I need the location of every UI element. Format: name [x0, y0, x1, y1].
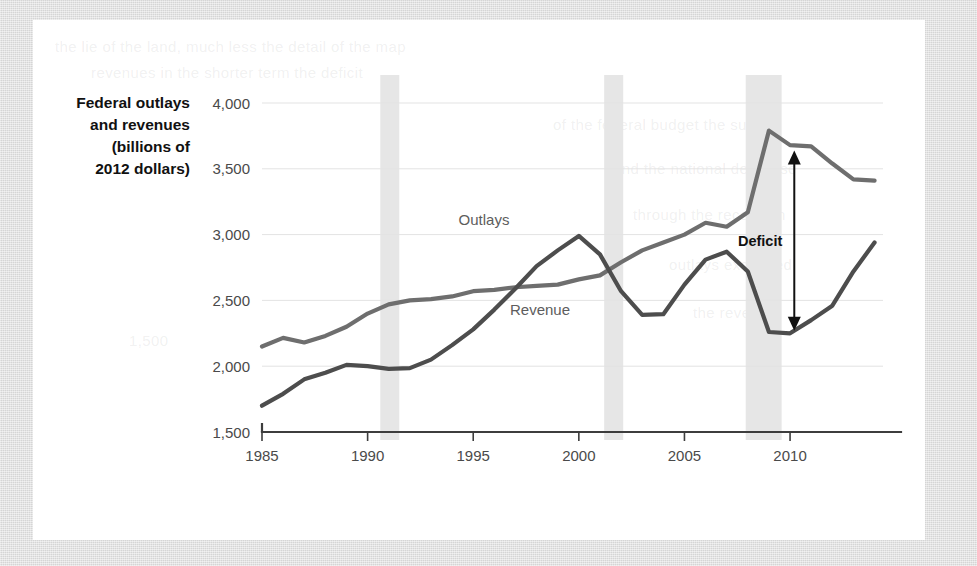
y-tick-label: 3,500	[212, 160, 250, 177]
series-group	[262, 131, 875, 406]
x-tick-label: 1990	[351, 447, 384, 464]
y-axis-title-line: 2012 dollars)	[95, 160, 190, 177]
y-tick-label: 3,000	[212, 226, 250, 243]
deficit-annotation-label: Deficit	[738, 233, 782, 249]
x-tick-label: 2000	[562, 447, 595, 464]
recession-band	[746, 75, 782, 440]
series-label-revenue: Revenue	[510, 301, 570, 318]
x-tick-label: 2005	[668, 447, 701, 464]
line-chart: 1,5002,0002,5003,0003,5004,000 198519901…	[33, 20, 925, 540]
x-tick-label: 1985	[245, 447, 278, 464]
recession-band	[380, 75, 399, 440]
y-axis-title-line: Federal outlays	[76, 94, 190, 111]
deficit-arrow-head-up	[788, 150, 801, 164]
chart-panel: the lie of the land, much less the detai…	[33, 20, 925, 540]
y-tick-label: 2,500	[212, 292, 250, 309]
y-axis-title-group: Federal outlaysand revenues(billions of2…	[76, 94, 191, 177]
y-axis-title-line: and revenues	[90, 116, 190, 133]
y-tick-label: 2,000	[212, 358, 250, 375]
x-tick-labels-group: 198519901995200020052010	[245, 447, 806, 464]
x-tick-label: 1995	[457, 447, 490, 464]
axis-group	[262, 423, 901, 441]
series-inline-labels-group: OutlaysRevenue	[459, 211, 570, 318]
recession-band	[604, 75, 623, 440]
y-tick-label: 4,000	[212, 95, 250, 112]
y-tick-labels-group: 1,5002,0002,5003,0003,5004,000	[212, 95, 250, 441]
series-label-outlays: Outlays	[459, 211, 510, 228]
y-axis-title-line: (billions of	[112, 138, 191, 155]
figure-root: the lie of the land, much less the detai…	[0, 0, 977, 566]
y-tick-label: 1,500	[212, 424, 250, 441]
recession-bands-group	[380, 75, 781, 440]
x-tick-label: 2010	[773, 447, 806, 464]
